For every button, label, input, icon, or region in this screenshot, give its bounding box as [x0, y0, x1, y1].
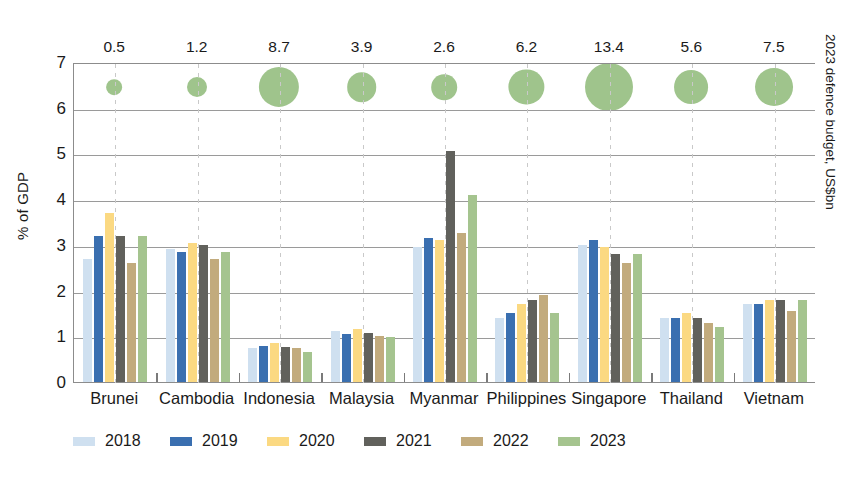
- bar: [468, 195, 477, 382]
- legend-swatch: [73, 437, 95, 446]
- bar: [578, 245, 587, 382]
- bubble-leader-line: [692, 64, 693, 384]
- bar: [248, 348, 257, 382]
- bar: [715, 327, 724, 382]
- bubble-leader-line: [445, 64, 446, 384]
- legend-swatch: [170, 437, 192, 446]
- bar: [331, 331, 340, 382]
- y-axis-tick-labels: 01234567: [36, 0, 66, 477]
- bubble-leader-line: [527, 64, 528, 384]
- bar: [386, 337, 395, 382]
- budget-value-label: 2.6: [433, 38, 455, 56]
- plot-area: [73, 63, 815, 383]
- bar: [743, 304, 752, 382]
- legend-item: 2022: [461, 432, 558, 450]
- bar: [435, 240, 444, 382]
- bar: [765, 300, 774, 382]
- bar: [693, 318, 702, 382]
- bar: [671, 318, 680, 382]
- bar: [682, 313, 691, 382]
- bar: [105, 213, 114, 382]
- bar: [221, 252, 230, 382]
- x-axis-category-label: Indonesia: [243, 389, 315, 408]
- bubble-leader-line: [115, 64, 116, 384]
- legend-item: 2023: [558, 432, 655, 450]
- legend-swatch: [364, 437, 386, 446]
- y-axis-tick-label: 1: [40, 328, 66, 345]
- bar: [600, 247, 609, 382]
- bar: [495, 318, 504, 382]
- legend-item: 2018: [73, 432, 170, 450]
- bar: [375, 336, 384, 382]
- bar: [446, 151, 455, 382]
- legend-item: 2020: [267, 432, 364, 450]
- bar: [787, 311, 796, 382]
- budget-value-label: 5.6: [681, 38, 703, 56]
- bar: [166, 249, 175, 382]
- bar: [199, 245, 208, 382]
- bar: [353, 329, 362, 382]
- bar: [83, 259, 92, 382]
- legend-swatch: [558, 437, 580, 446]
- x-axis-category-label: Cambodia: [159, 389, 234, 408]
- legend-label: 2023: [590, 432, 626, 450]
- x-axis-category-label: Singapore: [571, 389, 646, 408]
- y-axis-tick-label: 5: [40, 145, 66, 162]
- bar: [292, 348, 301, 382]
- secondary-axis-title: 2023 defence budget, US$bn: [823, 34, 838, 210]
- y-axis-tick-label: 3: [40, 237, 66, 254]
- bar: [188, 243, 197, 382]
- bar: [116, 236, 125, 382]
- bubble-leader-line: [610, 64, 611, 384]
- bar: [539, 295, 548, 382]
- bar: [704, 323, 713, 382]
- bar: [611, 254, 620, 382]
- bar: [127, 263, 136, 382]
- budget-value-label: 7.5: [763, 38, 785, 56]
- bar: [506, 313, 515, 382]
- bubble-leader-line: [775, 64, 776, 384]
- defence-spending-chart: % of GDP 01234567 2023 defence budget, U…: [0, 0, 860, 477]
- bar: [210, 259, 219, 382]
- legend-label: 2022: [493, 432, 529, 450]
- bar: [798, 300, 807, 382]
- legend-label: 2021: [396, 432, 432, 450]
- budget-value-label: 1.2: [186, 38, 208, 56]
- bar: [94, 236, 103, 382]
- bar: [342, 334, 351, 382]
- bar: [413, 247, 422, 382]
- legend-label: 2018: [105, 432, 141, 450]
- bar: [424, 238, 433, 382]
- legend-swatch: [461, 437, 483, 446]
- y-axis-title: % of GDP: [14, 172, 31, 240]
- bar: [457, 233, 466, 382]
- bar: [754, 304, 763, 382]
- bubble-leader-line: [198, 64, 199, 384]
- legend: 201820192020202120222023: [73, 432, 655, 450]
- x-axis-category-label: Brunei: [90, 389, 138, 408]
- budget-value-label: 8.7: [268, 38, 290, 56]
- defence-budget-value-labels: 0.51.28.73.92.66.213.45.67.5: [73, 0, 815, 63]
- bar: [259, 346, 268, 382]
- legend-item: 2021: [364, 432, 461, 450]
- legend-item: 2019: [170, 432, 267, 450]
- budget-value-label: 0.5: [103, 38, 125, 56]
- x-axis-category-label: Malaysia: [329, 389, 394, 408]
- legend-label: 2019: [202, 432, 238, 450]
- bar: [303, 352, 312, 382]
- bar: [177, 252, 186, 382]
- x-axis-category-label: Thailand: [660, 389, 723, 408]
- bar: [633, 254, 642, 382]
- bar: [270, 343, 279, 382]
- bar: [138, 236, 147, 382]
- y-axis-tick-label: 0: [40, 374, 66, 391]
- bar: [660, 318, 669, 382]
- bar: [281, 347, 290, 382]
- x-axis-category-label: Vietnam: [744, 389, 804, 408]
- y-axis-tick-label: 6: [40, 100, 66, 117]
- y-axis-tick-label: 2: [40, 283, 66, 300]
- x-axis-category-labels: BruneiCambodiaIndonesiaMalaysiaMyanmarPh…: [73, 389, 815, 415]
- y-axis-tick-label: 7: [40, 54, 66, 71]
- legend-label: 2020: [299, 432, 335, 450]
- x-axis-category-label: Myanmar: [410, 389, 479, 408]
